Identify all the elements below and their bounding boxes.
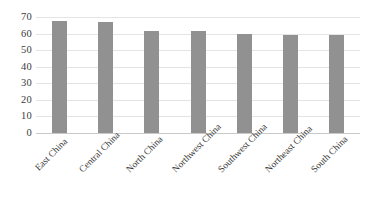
gridline: [36, 17, 360, 18]
bar: [329, 35, 344, 133]
x-axis-tick-label: East China: [32, 137, 70, 175]
bar: [191, 31, 206, 133]
bar-chart: 706050403020100 East ChinaCentral ChinaN…: [0, 0, 371, 206]
x-axis: East ChinaCentral ChinaNorth ChinaNorthw…: [36, 134, 360, 206]
y-axis-tick-label: 40: [2, 62, 32, 73]
plot-area: [36, 17, 360, 133]
x-axis-tick-label: Northwest China: [171, 137, 209, 175]
bar: [144, 31, 159, 133]
y-axis: 706050403020100: [0, 17, 32, 133]
y-axis-tick-label: 60: [2, 29, 32, 40]
x-axis-tick-label: Northeast China: [263, 137, 301, 175]
y-axis-tick-label: 30: [2, 78, 32, 89]
x-axis-tick-label: Southwest China: [217, 137, 255, 175]
x-axis-tick-label: South China: [310, 137, 348, 175]
y-axis-tick-label: 70: [2, 12, 32, 23]
y-axis-tick-label: 50: [2, 45, 32, 56]
y-axis-tick-label: 0: [2, 128, 32, 139]
bar: [98, 22, 113, 133]
y-axis-tick-label: 20: [2, 95, 32, 106]
bar: [52, 21, 67, 133]
x-axis-tick-label: North China: [125, 137, 163, 175]
y-axis-tick-label: 10: [2, 111, 32, 122]
bar: [283, 35, 298, 133]
bar: [237, 34, 252, 133]
x-axis-tick-label: Central China: [78, 137, 116, 175]
